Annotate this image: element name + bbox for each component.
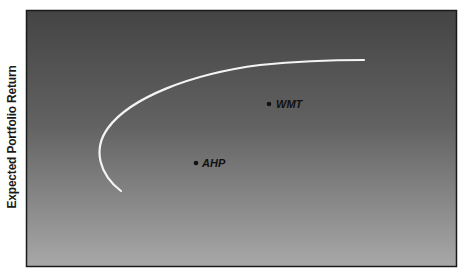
plot-area [27, 11, 457, 267]
chart-svg: AHP WMT [0, 0, 464, 275]
wmt-label: WMT [276, 98, 304, 110]
y-axis-label: Expected Portfolio Return [5, 65, 19, 208]
ahp-marker [194, 161, 199, 166]
ahp-label: AHP [201, 157, 226, 169]
wmt-marker [267, 102, 272, 107]
